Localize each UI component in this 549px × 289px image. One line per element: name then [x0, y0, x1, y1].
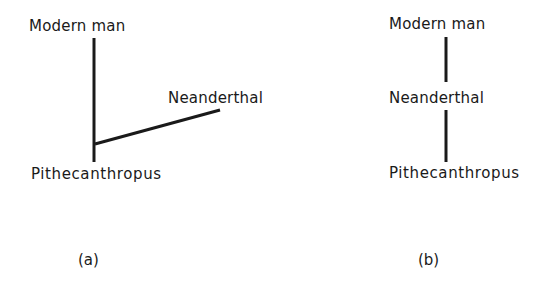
b-node-modern-man: Modern man: [389, 15, 485, 33]
b-node-pithecanthropus: Pithecanthropus: [389, 164, 520, 182]
caption-b: (b): [418, 251, 439, 269]
connector-lines: [0, 0, 549, 289]
a-node-modern-man: Modern man: [29, 17, 125, 35]
a-node-pithecanthropus: Pithecanthropus: [31, 165, 162, 183]
caption-a: (a): [78, 251, 99, 269]
a-branch-line: [95, 110, 220, 144]
b-node-neanderthal: Neanderthal: [389, 89, 484, 107]
a-node-neanderthal: Neanderthal: [168, 89, 263, 107]
